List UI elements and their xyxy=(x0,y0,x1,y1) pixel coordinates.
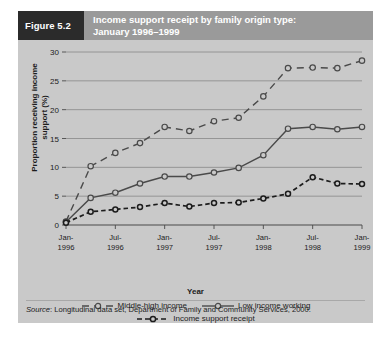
source-label: Source xyxy=(26,305,50,314)
data-point-marker xyxy=(261,94,266,99)
data-point-marker xyxy=(359,124,364,129)
data-point-marker xyxy=(286,191,291,196)
data-point-marker xyxy=(211,119,216,124)
data-point-marker xyxy=(64,220,69,225)
data-point-marker xyxy=(88,195,93,200)
data-point-marker xyxy=(137,140,142,145)
source-divider xyxy=(26,300,365,301)
figure-title: Income support receipt by family origin … xyxy=(84,11,373,40)
data-point-marker xyxy=(187,174,192,179)
x-tick-label: Jan- xyxy=(157,233,172,242)
x-axis-title: Year xyxy=(18,287,373,296)
data-point-marker xyxy=(310,175,315,180)
data-point-marker xyxy=(211,170,216,175)
x-tick-label: Jul- xyxy=(208,233,221,242)
data-point-marker xyxy=(88,163,93,168)
line-chart: 051015202530Jan-1996Jul-1996Jan-1997Jul-… xyxy=(18,40,373,285)
legend-item-income-support-receipt: Income support receipt xyxy=(136,314,254,324)
x-tick-label: 1998 xyxy=(304,243,321,252)
x-tick-label: Jul- xyxy=(109,233,122,242)
x-tick-label: Jan- xyxy=(59,233,74,242)
y-tick-label: 30 xyxy=(50,48,59,57)
data-point-marker xyxy=(137,181,142,186)
data-point-marker xyxy=(187,128,192,133)
data-point-marker xyxy=(335,127,340,132)
data-point-marker xyxy=(261,153,266,158)
data-point-marker xyxy=(261,196,266,201)
data-point-marker xyxy=(360,182,365,187)
data-point-marker xyxy=(138,205,143,210)
data-point-marker xyxy=(162,124,167,129)
x-tick-label: 1996 xyxy=(107,243,124,252)
plot-area: Proportion receiving income support (%) … xyxy=(18,40,373,240)
data-point-marker xyxy=(113,150,118,155)
data-point-marker xyxy=(310,65,315,70)
x-tick-label: 1997 xyxy=(206,243,223,252)
data-point-marker xyxy=(162,201,167,206)
figure-number-tag: Figure 5.2 xyxy=(18,11,84,40)
data-point-marker xyxy=(236,115,241,120)
data-point-marker xyxy=(335,65,340,70)
data-point-marker xyxy=(335,181,340,186)
data-point-marker xyxy=(236,165,241,170)
data-point-marker xyxy=(285,126,290,131)
figure-page: Figure 5.2 Income support receipt by fam… xyxy=(0,0,391,345)
data-point-marker xyxy=(359,58,364,63)
legend-label-income-support-receipt: Income support receipt xyxy=(173,314,254,323)
source-note: Source: Longitudinal data set, Departmen… xyxy=(26,305,311,314)
y-tick-label: 10 xyxy=(50,163,59,172)
x-tick-label: 1998 xyxy=(255,243,272,252)
y-tick-label: 0 xyxy=(55,221,60,230)
x-tick-label: Jul- xyxy=(307,233,320,242)
x-tick-label: 1999 xyxy=(354,243,371,252)
y-tick-label: 25 xyxy=(50,77,59,86)
y-tick-label: 20 xyxy=(50,106,59,115)
data-point-marker xyxy=(113,207,118,212)
data-point-marker xyxy=(162,174,167,179)
data-point-marker xyxy=(310,124,315,129)
data-point-marker xyxy=(113,190,118,195)
x-tick-label: Jan- xyxy=(256,233,271,242)
series-line xyxy=(66,61,362,222)
data-point-marker xyxy=(88,209,93,214)
source-text: : Longitudinal data set, Department of F… xyxy=(50,305,311,314)
figure-header: Figure 5.2 Income support receipt by fam… xyxy=(18,11,373,40)
data-point-marker xyxy=(187,204,192,209)
data-point-marker xyxy=(285,65,290,70)
x-tick-label: Jan- xyxy=(355,233,370,242)
data-point-marker xyxy=(212,201,217,206)
x-tick-label: 1996 xyxy=(58,243,75,252)
x-tick-label: 1997 xyxy=(156,243,173,252)
figure-body-panel: Proportion receiving income support (%) … xyxy=(18,40,373,323)
figure-title-line-2: January 1996–1999 xyxy=(93,26,373,38)
y-tick-label: 15 xyxy=(50,135,59,144)
legend-swatch-dotted-dash xyxy=(136,314,170,324)
data-point-marker xyxy=(236,200,241,205)
y-tick-label: 5 xyxy=(55,192,60,201)
figure-title-line-1: Income support receipt by family origin … xyxy=(93,14,373,26)
